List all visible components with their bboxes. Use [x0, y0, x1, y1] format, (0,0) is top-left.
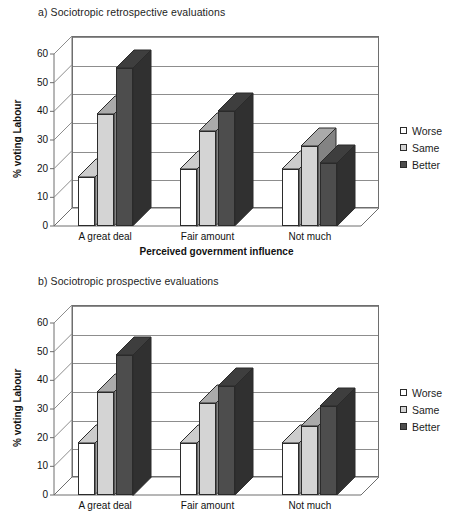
y-axis-tick: 0 — [16, 489, 48, 500]
legend-label: Same — [412, 404, 439, 416]
y-axis-tick: 20 — [16, 163, 48, 174]
chart-a-legend: WorseSameBetter — [400, 122, 442, 173]
legend-swatch-same — [400, 144, 407, 151]
y-axis-tick: 10 — [16, 460, 48, 471]
bar-same-a-great-deal — [97, 392, 114, 495]
x-axis-tick: A great deal — [55, 500, 155, 511]
y-axis-tick: 60 — [16, 317, 48, 328]
bar-same-fair-amount — [199, 131, 216, 226]
chart-a-x-axis-label: Perceived government influence — [54, 246, 379, 257]
legend-item-same: Same — [400, 139, 442, 156]
chart-a-title: a) Sociotropic retrospective evaluations — [38, 6, 225, 18]
x-axis-tick: Not much — [260, 500, 360, 511]
bar-better-a-great-deal — [116, 355, 133, 495]
legend-swatch-same — [400, 406, 407, 413]
x-axis-tick: Fair amount — [158, 231, 258, 242]
bar-better-not-much — [320, 406, 337, 495]
x-axis-tick: A great deal — [55, 231, 155, 242]
legend-item-same: Same — [400, 401, 442, 418]
chart-panel-b: b) Sociotropic prospective evaluations %… — [0, 262, 473, 439]
y-axis-tick: 50 — [16, 77, 48, 88]
bar-same-a-great-deal — [97, 114, 114, 226]
bar-same-not-much — [301, 146, 318, 226]
y-axis-tick: 0 — [16, 220, 48, 231]
bar-3d-faces — [218, 368, 255, 497]
y-axis-tick: 30 — [16, 403, 48, 414]
legend-label: Worse — [412, 387, 442, 399]
bar-worse-not-much — [282, 443, 299, 495]
y-axis-tick: 50 — [16, 346, 48, 357]
bar-same-fair-amount — [199, 403, 216, 495]
bar-worse-fair-amount — [180, 169, 197, 226]
legend-swatch-worse — [400, 127, 407, 134]
y-axis-tick: 40 — [16, 374, 48, 385]
x-axis-tick: Fair amount — [158, 500, 258, 511]
chart-panel-a: a) Sociotropic retrospective evaluations… — [0, 0, 473, 262]
bar-3d-faces — [116, 50, 153, 228]
y-axis-tick: 40 — [16, 105, 48, 116]
chart-b-plot-area — [54, 305, 379, 495]
y-axis-tick: 10 — [16, 191, 48, 202]
legend-item-better: Better — [400, 418, 442, 435]
chart-b-legend: WorseSameBetter — [400, 384, 442, 435]
legend-label: Better — [412, 421, 440, 433]
bar-worse-not-much — [282, 169, 299, 226]
bar-3d-faces — [116, 337, 153, 497]
x-axis-tick: Not much — [260, 231, 360, 242]
bar-better-fair-amount — [218, 386, 235, 495]
y-axis-tick: 30 — [16, 134, 48, 145]
legend-swatch-worse — [400, 389, 407, 396]
bar-3d-faces — [218, 93, 255, 228]
bar-3d-faces — [320, 145, 357, 228]
legend-swatch-better — [400, 161, 407, 168]
bar-better-a-great-deal — [116, 68, 133, 226]
bar-worse-fair-amount — [180, 443, 197, 495]
y-axis-tick: 20 — [16, 432, 48, 443]
bar-better-fair-amount — [218, 111, 235, 226]
legend-item-worse: Worse — [400, 384, 442, 401]
bar-worse-a-great-deal — [78, 443, 95, 495]
legend-label: Better — [412, 159, 440, 171]
legend-swatch-better — [400, 423, 407, 430]
y-axis-tick: 60 — [16, 48, 48, 59]
chart-b-title: b) Sociotropic prospective evaluations — [38, 275, 219, 287]
bar-better-not-much — [320, 163, 337, 226]
legend-label: Same — [412, 142, 439, 154]
chart-a-plot-area — [54, 36, 379, 226]
bar-same-not-much — [301, 426, 318, 495]
bar-worse-a-great-deal — [78, 177, 95, 226]
legend-item-better: Better — [400, 156, 442, 173]
legend-item-worse: Worse — [400, 122, 442, 139]
bar-3d-faces — [320, 388, 357, 497]
legend-label: Worse — [412, 125, 442, 137]
